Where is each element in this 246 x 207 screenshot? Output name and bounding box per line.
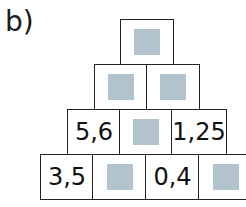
cell-value: 0,4 bbox=[153, 163, 191, 191]
pyramid-cell-r3-c2[interactable] bbox=[119, 109, 173, 155]
pyramid-cell-r4-c4[interactable] bbox=[198, 154, 246, 200]
pyramid-cell-r3-c1[interactable]: 5,6 bbox=[67, 109, 121, 155]
blank-placeholder bbox=[134, 29, 160, 55]
pyramid-cell-r1-c1[interactable] bbox=[120, 19, 174, 65]
pyramid-cell-r3-c3[interactable]: 1,25 bbox=[171, 109, 227, 155]
pyramid-cell-r2-c1[interactable] bbox=[94, 64, 148, 110]
cell-value: 3,5 bbox=[48, 163, 86, 191]
pyramid-cell-r4-c2[interactable] bbox=[92, 154, 147, 200]
blank-placeholder bbox=[133, 119, 159, 145]
blank-placeholder bbox=[108, 74, 134, 100]
pyramid-cell-r4-c3[interactable]: 0,4 bbox=[145, 154, 200, 200]
exercise-label: b) bbox=[5, 8, 34, 36]
pyramid-cell-r4-c1[interactable]: 3,5 bbox=[40, 154, 94, 200]
blank-placeholder bbox=[160, 74, 186, 100]
cell-value: 1,25 bbox=[172, 118, 225, 146]
pyramid-cell-r2-c2[interactable] bbox=[146, 64, 200, 110]
blank-placeholder bbox=[213, 164, 239, 190]
blank-placeholder bbox=[107, 164, 133, 190]
cell-value: 5,6 bbox=[75, 118, 113, 146]
